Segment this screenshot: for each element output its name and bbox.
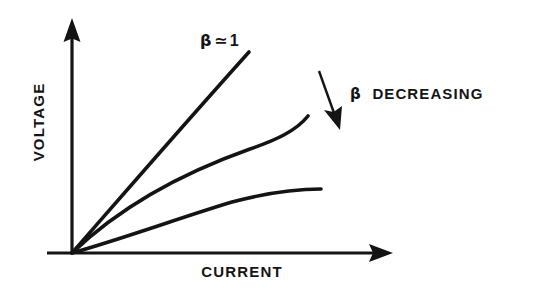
annotation-beta-value: 1 (230, 32, 239, 49)
curve-beta-approx-1 (72, 52, 249, 253)
beta-symbol-icon: β (350, 85, 362, 103)
y-axis-label: VOLTAGE (31, 83, 46, 162)
annotation-beta-decreasing: β DECREASING (350, 86, 483, 102)
plot-canvas (0, 0, 545, 293)
annotation-decreasing-text: DECREASING (372, 85, 483, 102)
beta-decreasing-arrow-shaft (319, 71, 334, 113)
y-axis-arrowhead-icon (64, 18, 81, 42)
iv-curve-figure: VOLTAGE CURRENT β≃1 β DECREASING (0, 0, 545, 293)
x-axis-label: CURRENT (201, 264, 283, 279)
annotation-beta-equals-one: β≃1 (200, 33, 239, 49)
beta-symbol-icon: β (200, 31, 212, 50)
relation-symbol-icon: ≃ (212, 31, 230, 50)
curve-beta-medium (72, 116, 308, 253)
